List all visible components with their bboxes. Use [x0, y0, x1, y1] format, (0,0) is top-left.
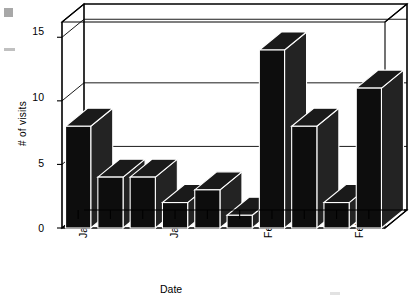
bar-front-1 — [98, 177, 123, 228]
bar-chart-figure: # of visits Date 15 10 5 0 Jan 13 Jan 19… — [0, 0, 412, 303]
plot-svg — [0, 0, 412, 303]
bar-9 — [356, 70, 403, 228]
bar-front-9 — [356, 88, 381, 228]
bar-front-6 — [259, 50, 284, 228]
bar-front-4 — [195, 190, 220, 228]
bar-side-9 — [381, 70, 403, 228]
bar-front-2 — [130, 177, 155, 228]
plot-area — [57, 4, 407, 228]
grid-connector-10 — [62, 83, 84, 101]
